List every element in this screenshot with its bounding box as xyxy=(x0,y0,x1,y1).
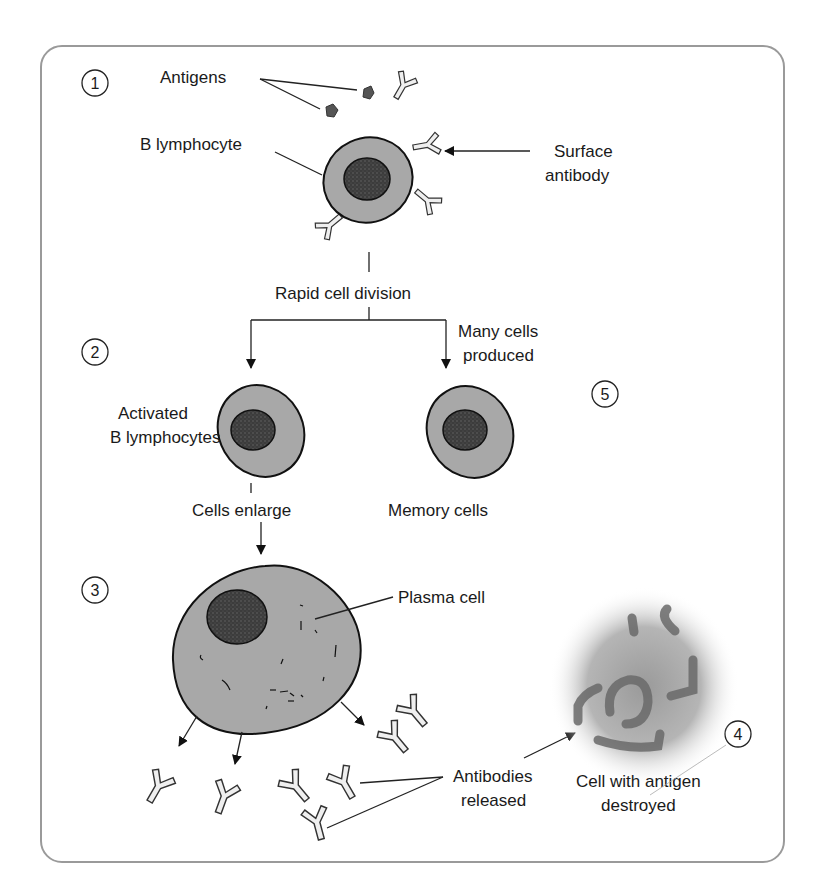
svg-text:antibody: antibody xyxy=(545,166,610,185)
destroyed-cell xyxy=(549,587,739,787)
label-cells-enlarge: Cells enlarge xyxy=(192,501,291,520)
svg-text:4: 4 xyxy=(734,726,743,743)
label-antigens: Antigens xyxy=(160,68,226,87)
label-many-cells: Many cells xyxy=(458,322,538,341)
step-1-badge: 1 xyxy=(82,70,108,96)
label-rapid-cell-division: Rapid cell division xyxy=(275,284,411,303)
label-cell-with-antigen-destroyed: Cell with antigen xyxy=(576,772,701,791)
svg-text:produced: produced xyxy=(463,346,534,365)
b-lymphocyte-cell xyxy=(309,69,444,242)
step-2-badge: 2 xyxy=(82,339,108,365)
label-surface-antibody: Surface xyxy=(554,142,613,161)
svg-text:B lymphocytes: B lymphocytes xyxy=(110,428,221,447)
label-antibodies-released: Antibodies xyxy=(453,767,532,786)
label-activated-b-lymphocytes: Activated xyxy=(118,404,188,423)
label-memory-cells: Memory cells xyxy=(388,501,488,520)
antigen-icon xyxy=(326,86,374,117)
svg-text:released: released xyxy=(461,791,526,810)
label-b-lymphocyte: B lymphocyte xyxy=(140,135,242,154)
label-plasma-cell: Plasma cell xyxy=(398,588,485,607)
immune-response-diagram: 1 2 3 4 5 Antigens B lymphocyte Surface … xyxy=(0,0,818,890)
svg-text:1: 1 xyxy=(91,75,100,92)
svg-text:3: 3 xyxy=(91,582,100,599)
plasma-cell xyxy=(173,565,361,734)
svg-text:2: 2 xyxy=(91,344,100,361)
svg-text:destroyed: destroyed xyxy=(601,796,676,815)
step-3-badge: 3 xyxy=(82,577,108,603)
memory-cell xyxy=(410,370,530,493)
svg-text:5: 5 xyxy=(601,386,610,403)
step-5-badge: 5 xyxy=(592,381,618,407)
